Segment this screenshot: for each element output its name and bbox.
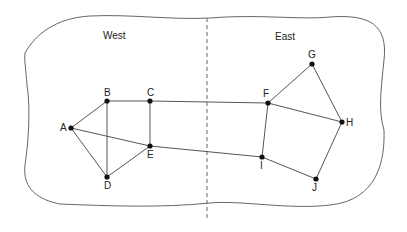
node-H — [339, 119, 344, 124]
node-D — [104, 174, 109, 179]
region-boundary — [25, 16, 385, 207]
node-label-I: I — [260, 160, 263, 171]
node-C — [147, 98, 152, 103]
edge-H-J — [316, 122, 342, 179]
node-label-F: F — [263, 88, 269, 99]
graph-diagram: West East ABCDEFGHIJ — [0, 0, 407, 232]
node-label-B: B — [104, 87, 111, 98]
node-label-G: G — [308, 49, 316, 60]
node-B — [104, 98, 109, 103]
region-label-east: East — [275, 31, 295, 42]
edge-D-E — [107, 146, 150, 177]
edge-F-I — [262, 103, 268, 157]
edge-F-G — [268, 64, 312, 103]
node-F — [265, 100, 270, 105]
edge-F-H — [268, 103, 342, 122]
region-label-west: West — [103, 30, 126, 41]
edge-A-B — [71, 101, 107, 128]
edge-C-F — [150, 101, 268, 103]
node-label-E: E — [147, 149, 154, 160]
edge-G-H — [312, 64, 342, 122]
diagram-canvas: West East ABCDEFGHIJ — [0, 0, 407, 232]
edge-E-I — [150, 146, 262, 157]
node-label-A: A — [60, 122, 67, 133]
node-A — [68, 125, 73, 130]
node-G — [309, 61, 314, 66]
node-J — [313, 176, 318, 181]
node-label-J: J — [312, 182, 317, 193]
node-label-H: H — [346, 117, 353, 128]
node-label-C: C — [147, 87, 154, 98]
node-E — [147, 143, 152, 148]
node-label-D: D — [104, 180, 111, 191]
node-I — [259, 154, 264, 159]
edge-I-J — [262, 157, 316, 179]
